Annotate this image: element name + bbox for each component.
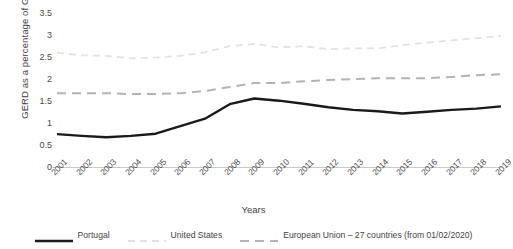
- legend-label: United States: [171, 230, 223, 240]
- y-tick-label: 1.5: [26, 97, 52, 106]
- legend-swatch-icon: [35, 231, 73, 239]
- y-tick-label: 0: [26, 163, 52, 172]
- series-line: [57, 36, 501, 58]
- x-axis-tick-labels: 2001200220032004200520062007200820092010…: [57, 168, 501, 204]
- legend-swatch-icon: [128, 231, 166, 239]
- series-lines: [57, 14, 501, 168]
- y-tick-label: 3: [26, 31, 52, 40]
- x-tick-label: 2001: [49, 157, 69, 177]
- legend-swatch-icon: [240, 231, 278, 239]
- legend-item[interactable]: United States: [128, 230, 223, 240]
- y-tick-label: 1: [26, 119, 52, 128]
- y-tick-label: 2: [26, 75, 52, 84]
- legend-label: Portugal: [78, 230, 110, 240]
- legend-item[interactable]: Portugal: [35, 230, 110, 240]
- legend-label: European Union – 27 countries (from 01/0…: [283, 230, 472, 240]
- series-line: [57, 74, 501, 94]
- legend-item[interactable]: European Union – 27 countries (from 01/0…: [240, 230, 472, 240]
- series-line: [57, 98, 501, 137]
- plot-area: [57, 14, 501, 168]
- y-tick-label: 0.5: [26, 141, 52, 150]
- x-axis-title: Years: [0, 204, 507, 215]
- chart-legend: PortugalUnited StatesEuropean Union – 27…: [0, 226, 507, 244]
- y-tick-label: 2.5: [26, 53, 52, 62]
- y-tick-label: 3.5: [26, 9, 52, 18]
